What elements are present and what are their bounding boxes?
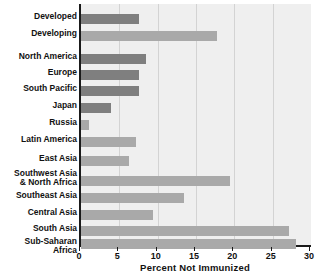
- x-tick-label: 0: [76, 251, 81, 261]
- bar: [81, 210, 153, 220]
- category-label: South Pacific: [0, 84, 77, 93]
- x-tick-label: 30: [304, 251, 314, 261]
- bar: [81, 176, 230, 186]
- category-label: Southwest Asia & North Africa: [0, 169, 77, 187]
- bar: [81, 31, 217, 41]
- category-label: East Asia: [0, 154, 77, 163]
- x-tick-label: 5: [115, 251, 120, 261]
- category-label: Central Asia: [0, 208, 77, 217]
- bar: [81, 193, 184, 203]
- bar: [81, 70, 139, 80]
- x-tick-label: 25: [266, 251, 276, 261]
- plot-area: [79, 4, 311, 247]
- category-labels: DevelopedDevelopingNorth AmericaEuropeSo…: [0, 4, 77, 247]
- category-label: Southeast Asia: [0, 191, 77, 200]
- bar: [81, 86, 139, 96]
- category-label: Latin America: [0, 135, 77, 144]
- category-label: North America: [0, 52, 77, 61]
- category-label: Developing: [0, 29, 77, 38]
- x-axis-title: Percent Not Immunized: [79, 262, 311, 273]
- bar: [81, 120, 89, 130]
- x-tick-label: 15: [189, 251, 199, 261]
- x-axis-ticks: 051015202530: [0, 247, 331, 259]
- category-label: Developed: [0, 12, 77, 21]
- x-tick-label: 20: [227, 251, 237, 261]
- x-tick-label: 10: [151, 251, 161, 261]
- bar: [81, 156, 129, 166]
- bars-layer: [81, 4, 311, 245]
- category-label: South Asia: [0, 224, 77, 233]
- bar: [81, 103, 111, 113]
- bar: [81, 137, 136, 147]
- bar: [81, 14, 139, 24]
- bar: [81, 226, 289, 236]
- category-label: Japan: [0, 101, 77, 110]
- immunization-bar-chart: DevelopedDevelopingNorth AmericaEuropeSo…: [0, 0, 331, 278]
- bar: [81, 54, 146, 64]
- category-label: Russia: [0, 118, 77, 127]
- category-label: Europe: [0, 68, 77, 77]
